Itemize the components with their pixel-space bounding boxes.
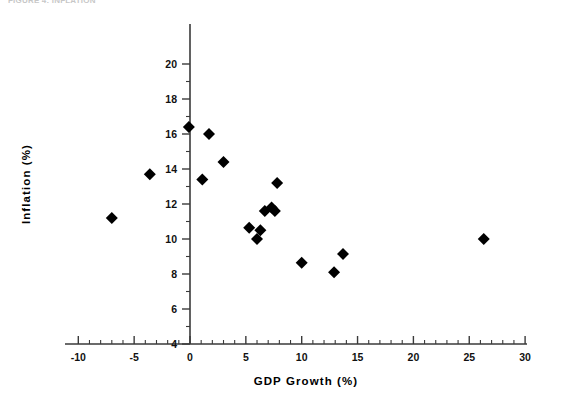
data-point [203,128,215,140]
y-tick-label: 6 [171,303,177,315]
x-tick-label: 30 [519,351,531,363]
x-tick-label: -10 [71,351,86,363]
data-point [196,174,208,186]
data-point [328,266,340,278]
data-point [183,121,195,133]
data-point [478,233,490,245]
data-point [106,212,118,224]
y-tick-label: 20 [165,58,177,70]
x-tick-label: 5 [243,351,249,363]
scatter-plot: -10-5051015202530468101214161820GDP Grow… [0,0,562,410]
x-tick-label: 25 [463,351,475,363]
data-point [218,156,230,168]
y-tick-label: 10 [165,233,177,245]
y-axis-title: Inflation (%) [20,144,32,224]
y-tick-label: 4 [171,338,177,350]
x-axis-title: GDP Growth (%) [254,375,359,387]
data-point [337,248,349,260]
x-tick-label: 10 [296,351,308,363]
data-point [296,257,308,269]
x-tick-label: 0 [187,351,193,363]
x-tick-label: 20 [408,351,420,363]
data-point [144,168,156,180]
figure-container: FIGURE 4: INFLATION -10-5051015202530468… [0,0,562,410]
data-point [271,177,283,189]
y-tick-label: 8 [171,268,177,280]
data-point [243,222,255,234]
y-tick-label: 12 [165,198,177,210]
x-tick-label: -5 [129,351,138,363]
y-tick-label: 18 [165,93,177,105]
x-tick-label: 15 [352,351,364,363]
y-tick-label: 14 [165,163,177,175]
y-tick-label: 16 [165,128,177,140]
